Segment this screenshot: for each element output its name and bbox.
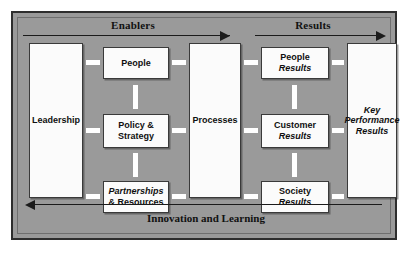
results-band-label: Results <box>228 19 398 31</box>
box-people-results: PeopleResults <box>261 47 329 79</box>
results-arrow-head-icon <box>376 31 386 41</box>
innovation-arrow-line <box>35 204 382 205</box>
connector-partnerships-processes <box>172 194 186 199</box>
box-people-text: People <box>119 58 153 69</box>
connector-society-results-key-performance <box>332 194 344 199</box>
connector-policy-processes <box>172 128 186 133</box>
connector-leadership-policy <box>86 128 100 133</box>
connector-processes-society-results <box>244 194 258 199</box>
box-processes-text: Processes <box>190 115 239 126</box>
connector-policy-partnerships <box>133 153 138 177</box>
box-customer-results-text: CustomerResults <box>272 120 318 141</box>
box-people-results-text: PeopleResults <box>277 52 314 73</box>
connector-people-results-key-performance <box>332 60 344 65</box>
box-people: People <box>103 47 169 79</box>
box-leadership: Leadership <box>29 43 83 198</box>
connector-people-processes <box>172 60 186 65</box>
connector-leadership-people <box>86 60 100 65</box>
connector-processes-people-results <box>244 60 258 65</box>
box-processes: Processes <box>189 43 241 198</box>
enablers-arrow-head-icon <box>220 31 230 41</box>
box-society-results: SocietyResults <box>261 181 329 213</box>
box-policy-and-strategy: Policy &Strategy <box>103 114 169 148</box>
connector-people-results-customer-results <box>292 85 297 109</box>
connector-leadership-partnerships <box>86 194 100 199</box>
innovation-arrow-head-icon <box>25 200 35 210</box>
efqm-excellence-model-diagram: Enablers Results Leadership People Polic… <box>11 11 397 240</box>
box-leadership-text: Leadership <box>30 115 82 126</box>
box-key-performance-results: KeyPerformanceResults <box>347 43 397 198</box>
box-key-performance-results-text: KeyPerformanceResults <box>342 105 401 137</box>
innovation-and-learning-label: Innovation and Learning <box>23 212 389 224</box>
box-partnerships-and-resources: Partnerships& Resources <box>103 181 169 213</box>
connector-customer-results-society-results <box>292 153 297 177</box>
box-customer-results: CustomerResults <box>261 114 329 148</box>
connector-processes-customer-results <box>244 128 258 133</box>
connector-people-policy <box>133 85 138 109</box>
enablers-arrow-line <box>23 35 230 36</box>
enablers-band-label: Enablers <box>33 19 233 31</box>
results-arrow-line <box>255 35 382 36</box>
box-policy-and-strategy-text: Policy &Strategy <box>116 120 156 141</box>
